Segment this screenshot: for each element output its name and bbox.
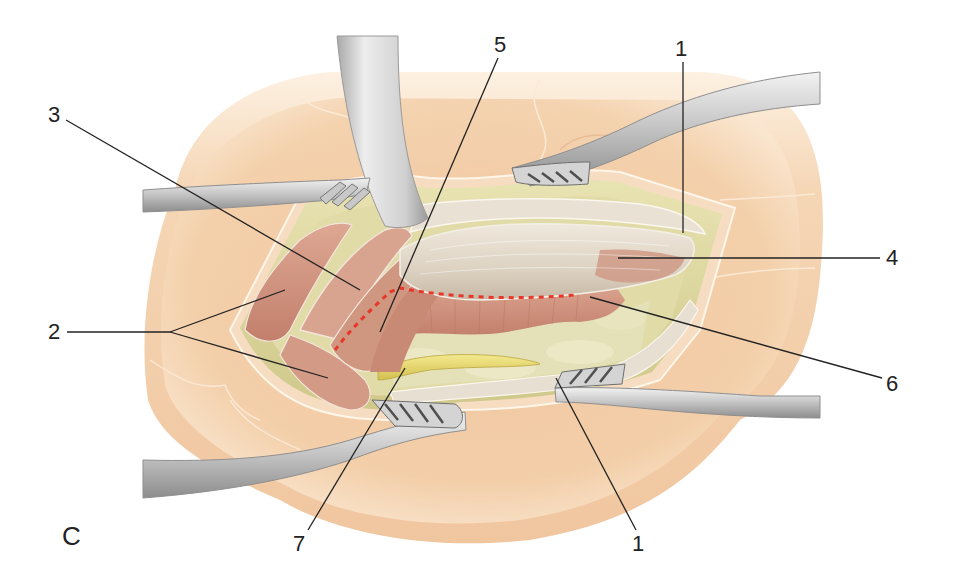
label-5: 5 bbox=[494, 34, 506, 56]
illustration-canvas bbox=[0, 0, 953, 586]
label-3: 3 bbox=[48, 104, 60, 126]
label-6: 6 bbox=[886, 373, 898, 395]
panel-letter: C bbox=[62, 521, 81, 552]
label-4: 4 bbox=[886, 247, 898, 269]
label-1-top: 1 bbox=[675, 38, 687, 60]
label-2: 2 bbox=[48, 321, 60, 343]
surgical-illustration: 3 5 1 4 2 6 7 1 C bbox=[0, 0, 953, 586]
label-1-bottom: 1 bbox=[632, 533, 644, 555]
label-7: 7 bbox=[293, 533, 305, 555]
